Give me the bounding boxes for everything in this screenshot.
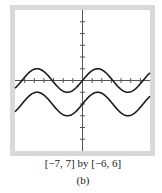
window-range-caption: [−7, 7] by [−6, 6]	[0, 158, 162, 169]
graph-window	[0, 0, 162, 158]
panel-label: (b)	[0, 175, 162, 186]
